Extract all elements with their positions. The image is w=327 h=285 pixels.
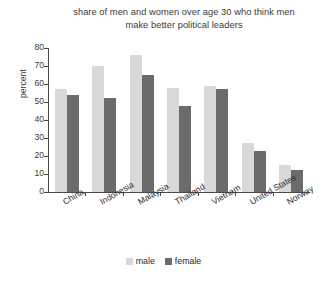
chart-title-line-2: make better political leaders — [55, 19, 313, 32]
x-axis-tick-mark — [85, 192, 86, 196]
chart-title-line-1: share of men and women over age 30 who t… — [55, 6, 313, 19]
y-axis-tick-label: 80 — [34, 42, 44, 52]
bar-male — [55, 89, 67, 192]
bar-male — [130, 55, 142, 192]
y-axis-tick-mark — [44, 102, 48, 103]
bar-female — [216, 89, 228, 192]
y-axis-tick-mark — [44, 120, 48, 121]
bar-group — [55, 48, 79, 192]
y-axis-tick-label: 50 — [34, 96, 44, 106]
bar-female — [254, 151, 266, 192]
bar-female — [104, 98, 116, 192]
bar-male — [92, 66, 104, 192]
y-axis-tick-label: 20 — [34, 150, 44, 160]
y-axis-tick-mark — [44, 48, 48, 49]
bar-group — [130, 48, 154, 192]
bar-male — [242, 143, 254, 192]
legend-item: female — [165, 256, 201, 266]
bar-group — [279, 48, 303, 192]
bar-male — [167, 88, 179, 192]
bar-female — [67, 95, 79, 192]
chart-figure: share of men and women over age 30 who t… — [0, 0, 327, 285]
bar-group — [242, 48, 266, 192]
legend-item: male — [126, 256, 155, 266]
bar-group — [167, 48, 191, 192]
y-axis-tick-mark — [44, 138, 48, 139]
y-axis-tick-label: 70 — [34, 60, 44, 70]
bar-male — [204, 86, 216, 192]
legend-label: male — [136, 256, 155, 266]
chart-legend: malefemale — [0, 256, 327, 266]
bar-group — [204, 48, 228, 192]
y-axis-tick-mark — [44, 84, 48, 85]
y-axis-tick-mark — [44, 192, 48, 193]
legend-swatch-female — [165, 258, 172, 265]
bar-group — [92, 48, 116, 192]
y-axis-tick-label: 60 — [34, 78, 44, 88]
y-axis-tick-label: 10 — [34, 168, 44, 178]
legend-swatch-male — [126, 258, 133, 265]
chart-title: share of men and women over age 30 who t… — [55, 6, 313, 31]
y-axis-title: percent — [18, 69, 28, 98]
bar-female — [179, 106, 191, 192]
y-axis-tick-label: 30 — [34, 132, 44, 142]
y-axis-tick-mark — [44, 156, 48, 157]
y-axis-tick-mark — [44, 174, 48, 175]
plot-area: 01020304050607080 — [48, 48, 310, 192]
y-axis-line — [48, 48, 49, 192]
y-axis-tick-mark — [44, 66, 48, 67]
legend-label: female — [175, 256, 201, 266]
bar-female — [142, 75, 154, 192]
y-axis-tick-label: 40 — [34, 114, 44, 124]
y-axis-tick-label: 0 — [39, 186, 44, 196]
